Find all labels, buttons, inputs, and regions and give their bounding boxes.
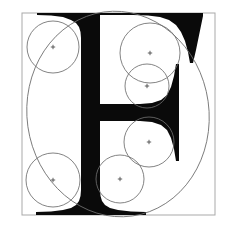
diagram-canvas: Geometric typographic analysis of a seri…: [0, 0, 234, 234]
construction-diagram-svg: [0, 0, 234, 234]
